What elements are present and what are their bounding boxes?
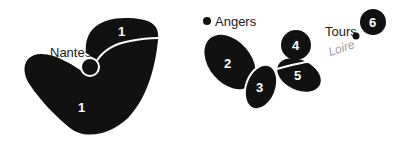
tours-label: Tours <box>325 24 357 39</box>
region-4-label: 4 <box>292 38 300 53</box>
nantes-city-dot <box>81 58 99 76</box>
region-1-north-label: 1 <box>118 24 125 39</box>
tours-city-dot <box>353 33 360 40</box>
region-2-label: 2 <box>224 56 231 71</box>
angers-label: Angers <box>215 14 257 29</box>
region-5-label: 5 <box>294 68 301 83</box>
region-6-label: 6 <box>369 15 376 30</box>
region-3-label: 3 <box>256 80 263 95</box>
region-1-south-label: 1 <box>78 100 85 115</box>
map-canvas: 1 1 Nantes Angers 2 3 4 5 Tours Loire 6 <box>0 0 413 147</box>
angers-city-dot <box>203 17 211 25</box>
loire-river-label: Loire <box>327 37 357 59</box>
nantes-label: Nantes <box>50 45 92 60</box>
